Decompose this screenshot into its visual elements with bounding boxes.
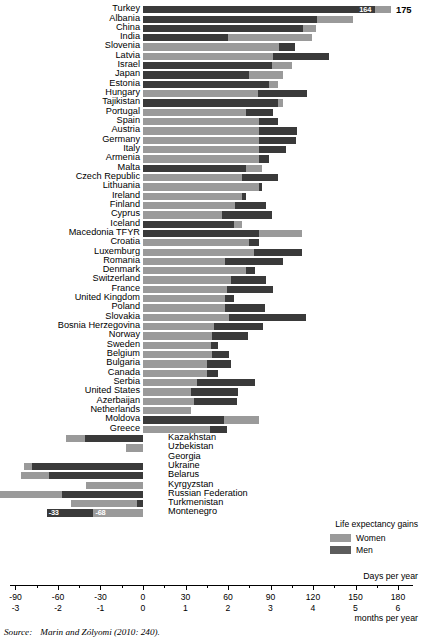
bar-stack: 164175 (0, 6, 423, 13)
bar-segment-women (143, 258, 225, 265)
bar-segment-women (24, 463, 33, 470)
bar-stack (0, 379, 423, 386)
bar-segment-women (317, 16, 352, 23)
bar-stack (0, 155, 423, 162)
bar-segment-men (143, 71, 249, 78)
bar-segment-women (272, 62, 292, 69)
bar-stack (0, 193, 423, 200)
bar-segment-men (259, 183, 262, 190)
bar-segment-women (143, 332, 212, 339)
bar-segment-women (86, 482, 143, 489)
bar-segment-men (229, 314, 306, 321)
x-axis: -90-3-60-2-30-100301602903120415051806 (0, 585, 423, 586)
axis-tick-label-months: 6 (378, 603, 418, 613)
bar-stack (0, 183, 423, 190)
bar-segment-women (303, 25, 316, 32)
bar-segment-women (234, 221, 243, 228)
bar-segment-men (235, 202, 266, 209)
bar-segment-men (259, 127, 297, 134)
axis-units-primary: Days per year (280, 571, 418, 581)
bar-segment-men (279, 43, 295, 50)
bar-stack (0, 398, 423, 405)
bar-segment-women (143, 174, 242, 181)
bar-value-label: -68 (95, 509, 105, 517)
bar-stack (0, 258, 423, 265)
bar-stack (0, 62, 423, 69)
bar-segment-women (143, 109, 246, 116)
bar-segment-men (143, 416, 224, 423)
bar-segment-women (278, 99, 284, 106)
axis-tick-label-months: 4 (293, 603, 333, 613)
bar-stack (0, 109, 423, 116)
bar-stack (0, 71, 423, 78)
bar-segment-men (254, 249, 302, 256)
axis-tick-major (58, 585, 59, 590)
axis-tick-label-days: 90 (251, 592, 291, 602)
bar-segment-women (143, 295, 225, 302)
bar-segment-men (242, 174, 277, 181)
bar-segment-men (143, 34, 228, 41)
legend-swatch-women-icon (330, 534, 351, 542)
bar-segment-women (143, 360, 207, 367)
axis-tick-label-days: -60 (38, 592, 78, 602)
bar-stack (0, 118, 423, 125)
bar-segment-women (143, 267, 246, 274)
bar-segment-women (143, 90, 258, 97)
axis-tick-minor (377, 585, 378, 588)
bar-segment-men (258, 90, 308, 97)
bar-segment-women (143, 183, 259, 190)
bar-stack (0, 416, 423, 423)
bar-segment-women (143, 342, 211, 349)
legend-label-men: Men (356, 545, 373, 555)
axis-tick-minor (37, 585, 38, 588)
bar-segment-women (143, 249, 254, 256)
bar-stack (0, 249, 423, 256)
bar-stack (0, 370, 423, 377)
bar-stack (0, 25, 423, 32)
source-text: Marin and Zólyomi (2010: 240). (40, 627, 160, 637)
bar-stack (0, 286, 423, 293)
bar-segment-women (143, 379, 197, 386)
axis-tick-label-days: -30 (80, 592, 120, 602)
axis-units-secondary: months per year (280, 613, 418, 623)
bar-segment-women (143, 370, 207, 377)
axis-tick-major (186, 585, 187, 590)
bar-stack (0, 202, 423, 209)
bar-stack (0, 351, 423, 358)
axis-tick-minor (249, 585, 250, 588)
bar-segment-men (225, 295, 234, 302)
bar-stack (0, 342, 423, 349)
bar-segment-men (246, 267, 255, 274)
bar-segment-women (143, 398, 194, 405)
bar-stack (0, 239, 423, 246)
bar-segment-women (143, 53, 273, 60)
bar-stack (0, 16, 423, 23)
bar-stack (0, 221, 423, 228)
bar-segment-men (259, 155, 269, 162)
bar-segment-women (143, 118, 259, 125)
bar-segment-men (214, 323, 264, 330)
bar-segment-women (143, 43, 279, 50)
bar-segment-men (259, 146, 286, 153)
bar-segment-men (194, 398, 237, 405)
axis-tick-minor (164, 585, 165, 588)
axis-tick-label-days: 180 (378, 592, 418, 602)
axis-tick-label-days: 150 (336, 592, 376, 602)
axis-tick-major (356, 585, 357, 590)
axis-tick-label-days: -90 (0, 592, 35, 602)
bar-stack: -68-33 (0, 509, 423, 516)
bar-segment-men (143, 221, 234, 228)
bar-segment-women (143, 304, 225, 311)
bar-stack (0, 146, 423, 153)
axis-tick-label-days: 120 (293, 592, 333, 602)
bar-segment-men (32, 463, 143, 470)
bar-segment-men (207, 360, 231, 367)
bar-stack (0, 267, 423, 274)
bar-segment-men (231, 276, 266, 283)
bar-stack (0, 407, 423, 414)
axis-tick-label-months: -2 (38, 603, 78, 613)
bar-segment-men (259, 118, 277, 125)
bar-segment-women (143, 239, 249, 246)
legend-label-women: Women (356, 533, 385, 543)
bar-segment-women (71, 500, 138, 507)
